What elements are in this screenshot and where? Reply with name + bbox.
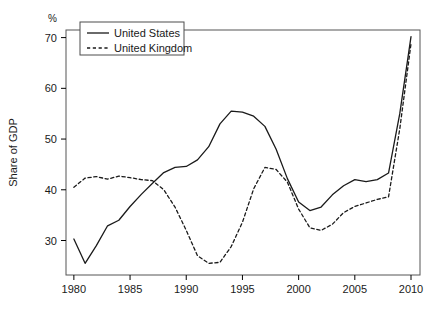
series-line-united-kingdom: [74, 44, 411, 264]
series-line-united-states: [74, 37, 411, 264]
x-tick-label: 1985: [118, 283, 142, 295]
x-tick-label: 2010: [399, 283, 423, 295]
y-tick-label: 40: [45, 184, 57, 196]
chart-container: 19801985199019952000200520103040506070%S…: [0, 0, 437, 314]
y-axis-title: Share of GDP: [7, 118, 19, 186]
y-axis-unit-label: %: [48, 13, 57, 24]
x-tick-label: 1990: [174, 283, 198, 295]
line-chart: 19801985199019952000200520103040506070%S…: [0, 0, 437, 314]
x-tick-label: 2005: [343, 283, 367, 295]
y-tick-label: 70: [45, 32, 57, 44]
y-tick-label: 60: [45, 82, 57, 94]
x-tick-label: 1980: [62, 283, 86, 295]
x-tick-label: 1995: [230, 283, 254, 295]
plot-frame: [66, 30, 420, 275]
legend-label-0: United States: [114, 27, 181, 39]
x-tick-label: 2000: [286, 283, 310, 295]
legend-label-1: United Kingdom: [114, 42, 192, 54]
y-tick-label: 30: [45, 235, 57, 247]
y-tick-label: 50: [45, 133, 57, 145]
